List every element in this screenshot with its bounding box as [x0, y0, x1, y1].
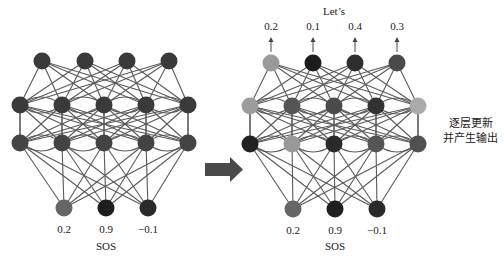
right-hidden1-node-1	[242, 98, 259, 115]
left-hidden1-node-5	[180, 97, 197, 114]
side-annotation-line-1: 逐层更新	[443, 116, 498, 131]
right-output-node-4	[389, 55, 406, 72]
right-output-node-3	[347, 55, 364, 72]
left-output-node-3	[119, 53, 136, 70]
right-arrow-icon	[205, 157, 243, 182]
edge	[250, 144, 293, 209]
arrow-head-icon	[269, 37, 274, 42]
right-hidden2-node-3	[326, 136, 343, 153]
right-input-node-3	[369, 201, 386, 218]
right-hidden1-node-3	[326, 98, 343, 115]
edge	[377, 144, 418, 209]
input-value: 0.9	[99, 224, 113, 235]
left-hidden2-node-4	[138, 135, 155, 152]
edge	[64, 143, 104, 208]
left-input-node-2	[98, 200, 115, 217]
left-hidden1-node-4	[138, 97, 155, 114]
edge	[20, 143, 64, 208]
arrow-head-icon	[353, 37, 358, 42]
edge	[64, 143, 146, 208]
output-value: 0.1	[306, 21, 320, 32]
edge	[292, 144, 293, 209]
input-value: 0.9	[328, 225, 342, 236]
left-hidden2-node-3	[96, 135, 113, 152]
right-hidden2-node-2	[284, 136, 301, 153]
right-input-node-2	[327, 201, 344, 218]
right-hidden1-node-4	[368, 98, 385, 115]
left-hidden2-node-2	[54, 135, 71, 152]
left-hidden1-node-3	[96, 97, 113, 114]
side-annotation: 逐层更新 并产生输出	[443, 116, 498, 146]
left-output-node-4	[161, 53, 178, 70]
left-hidden2-node-1	[12, 135, 29, 152]
left-hidden1-node-2	[54, 97, 71, 114]
left-hidden1-node-1	[12, 97, 29, 114]
left-input-node-1	[56, 200, 73, 217]
edge	[293, 144, 418, 209]
right-hidden2-node-1	[242, 136, 259, 153]
right-input-token: SOS	[325, 241, 345, 252]
left-output-node-2	[77, 53, 94, 70]
diagram-stage: 0.20.9−0.1 SOS Let’s 0.20.10.40.3 0.20.9…	[0, 0, 504, 260]
arrow-head-icon	[395, 37, 400, 42]
output-value: 0.2	[264, 21, 278, 32]
output-arrows	[269, 37, 400, 52]
output-token: Let’s	[323, 6, 345, 17]
arrow-head-icon	[311, 37, 316, 42]
left-input-node-3	[140, 200, 157, 217]
left-hidden2-node-5	[180, 135, 197, 152]
right-hidden1-node-2	[284, 98, 301, 115]
edge	[106, 143, 188, 208]
right-input-node-1	[285, 201, 302, 218]
right-hidden2-node-5	[410, 136, 427, 153]
output-value: 0.4	[348, 21, 362, 32]
right-hidden2-node-4	[368, 136, 385, 153]
right-hidden1-node-5	[410, 98, 427, 115]
input-value: −0.1	[367, 225, 387, 236]
output-value: 0.3	[390, 21, 404, 32]
right-output-node-1	[263, 55, 280, 72]
edge	[64, 143, 188, 208]
right-output-node-2	[305, 55, 322, 72]
side-annotation-line-2: 并产生输出	[443, 131, 498, 146]
transition-arrow-icon	[205, 157, 243, 182]
input-value: 0.2	[57, 224, 71, 235]
edge	[293, 144, 334, 209]
left-input-token: SOS	[96, 241, 116, 252]
edge	[148, 143, 188, 208]
left-output-node-1	[34, 53, 51, 70]
input-value: 0.2	[286, 225, 300, 236]
input-value: −0.1	[138, 224, 158, 235]
network-diagram	[0, 0, 504, 260]
